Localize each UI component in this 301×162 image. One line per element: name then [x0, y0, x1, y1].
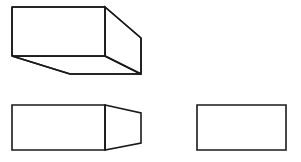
- figures-canvas: [0, 0, 301, 162]
- plain-rectangle-outline: [197, 105, 286, 150]
- figure-1-box-wireframe[interactable]: [12, 7, 141, 74]
- figure-2-rectangle-with-tapered-end[interactable]: [12, 105, 141, 150]
- box-front-face: [12, 7, 105, 56]
- rectangle-body: [12, 105, 105, 150]
- figure-3-plain-rectangle[interactable]: [197, 105, 286, 150]
- tapered-end-trapezoid: [105, 105, 141, 150]
- figure-sheet: [0, 0, 301, 162]
